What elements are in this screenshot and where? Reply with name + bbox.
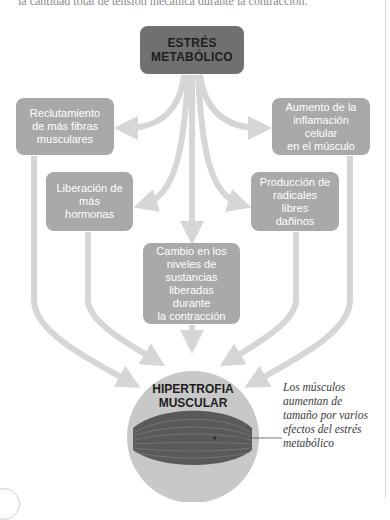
effect-line: Cambio en los — [151, 245, 232, 258]
effect-line: radicales libres — [259, 189, 331, 215]
effect-line: Aumento de la — [280, 101, 362, 114]
effect-box-hormonas: Liberación de más hormonas — [46, 172, 133, 231]
title-line: ESTRÉS — [151, 36, 233, 50]
arrow-to-inflamacion — [200, 75, 260, 128]
effect-line: musculares — [30, 133, 100, 146]
effect-box-radicales: Producción de radicales libres dañinos — [251, 172, 339, 231]
result-line: MUSCULAR — [143, 396, 243, 410]
caption-line: metabólico — [283, 436, 383, 450]
effect-line: niveles de — [151, 258, 232, 271]
title-line: METABÓLICO — [151, 50, 233, 64]
caption-line: tamaño por varios — [283, 408, 383, 422]
caption-line: efectos del estrés — [283, 422, 383, 436]
effect-line: dañinos — [259, 215, 331, 228]
effect-line: sustancias — [151, 271, 232, 284]
arrow-to-reclutamiento — [126, 75, 184, 128]
effect-box-sustancias: Cambio en los niveles de sustancias libe… — [143, 243, 240, 324]
result-label-hipertrofia: HIPERTROFIA MUSCULAR — [143, 382, 243, 410]
effect-box-reclutamiento: Reclutamiento de más fibras musculares — [16, 98, 114, 155]
effect-line: Liberación de — [54, 182, 125, 195]
effect-line: Reclutamiento — [30, 107, 100, 120]
effect-line: liberadas durante — [151, 284, 232, 310]
caption-text: Los músculos aumentan de tamaño por vari… — [283, 380, 383, 450]
effect-box-inflamacion: Aumento de la inflamación celular en el … — [272, 98, 370, 155]
effect-line: la contracción — [151, 310, 232, 323]
result-line: HIPERTROFIA — [143, 382, 243, 396]
effect-line: más hormonas — [54, 195, 125, 221]
caption-line: aumentan de — [283, 394, 383, 408]
effect-line: inflamación celular — [280, 114, 362, 140]
caption-line: Los músculos — [283, 380, 383, 394]
effect-line: en el músculo — [280, 140, 362, 153]
title-box-estres-metabolico: ESTRÉS METABÓLICO — [140, 26, 244, 74]
effect-line: de más fibras — [30, 120, 100, 133]
effect-line: Producción de — [259, 176, 331, 189]
